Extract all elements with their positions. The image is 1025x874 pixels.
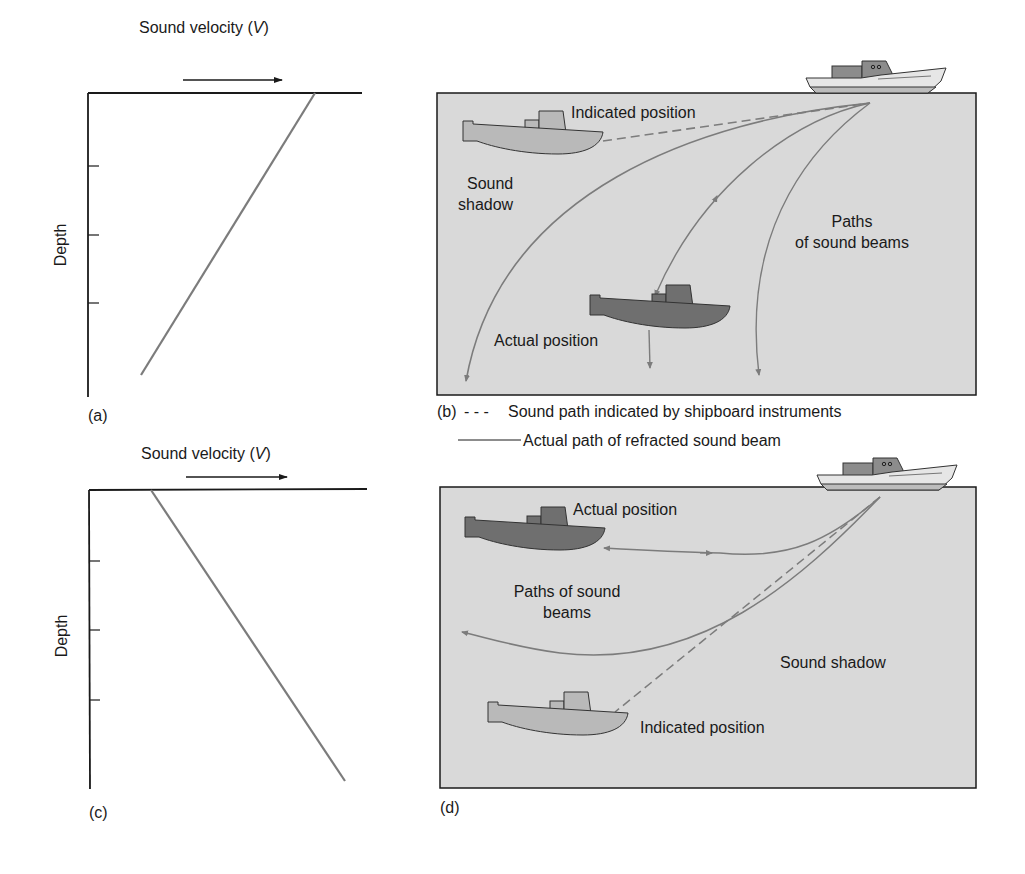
depth-axis <box>89 490 90 789</box>
actual-position-label: Actual position <box>573 501 677 518</box>
depth-label: Depth <box>53 615 70 658</box>
indicated-position-label: Indicated position <box>640 719 765 736</box>
sound-shadow-label: Sound shadow <box>780 654 886 671</box>
panel-a: Sound velocity (V) Depth (a) <box>52 19 362 424</box>
panel-label: (c) <box>89 804 108 821</box>
legend-dashed-symbol: - - - <box>464 403 489 420</box>
panel-a-axis-title: Sound velocity (V) <box>139 19 269 36</box>
legend-solid-text: Actual path of refracted sound beam <box>523 432 781 449</box>
panel-label: (a) <box>88 407 108 424</box>
actual-position-label: Actual position <box>494 332 598 349</box>
legend-dashed-text: Sound path indicated by shipboard instru… <box>508 403 842 420</box>
panel-c-axis-title: Sound velocity (V) <box>141 445 271 462</box>
panel-c: Sound velocity (V) Depth (c) <box>53 445 367 821</box>
velocity-profile-line <box>151 490 345 781</box>
paths-label: beams <box>543 604 591 621</box>
panel-b: Indicated position Sound shadow Paths of… <box>437 61 976 420</box>
sound-refraction-figure: Sound velocity (V) Depth (a) Indicated p… <box>0 0 1025 874</box>
sound-shadow-label: Sound <box>467 175 513 192</box>
surface-ship-icon <box>806 61 946 93</box>
legend: - - - Sound path indicated by shipboard … <box>458 403 842 449</box>
paths-label: Paths of sound <box>514 583 621 600</box>
paths-label: Paths <box>832 213 873 230</box>
velocity-profile-line <box>141 93 315 375</box>
sound-shadow-label: shadow <box>458 196 514 213</box>
beam-path <box>649 330 650 368</box>
surface-axis <box>89 489 367 490</box>
paths-label: of sound beams <box>795 234 909 251</box>
panel-label: (d) <box>440 799 460 816</box>
panel-label: (b) <box>437 403 457 420</box>
surface-ship-icon <box>817 458 957 490</box>
depth-label: Depth <box>52 224 69 267</box>
indicated-position-label: Indicated position <box>571 104 696 121</box>
panel-d: Actual position Paths of sound beams Sou… <box>440 458 976 816</box>
